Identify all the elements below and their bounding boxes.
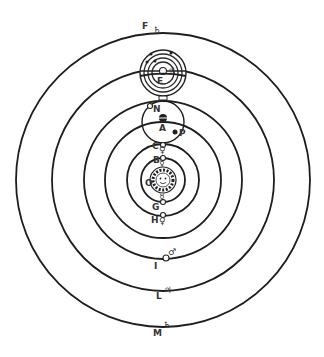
sun-icon xyxy=(150,167,176,193)
jupiter-symbol-bottom: ♃ xyxy=(164,285,172,295)
mars-symbol: ♂ xyxy=(168,247,176,257)
mercury-symbol-g: ☿ xyxy=(159,192,165,202)
planetary-diagram: F ♄ E ♃ N A P C ♀ B ☿ O ☿ G H ♀ I ♂ L ♃ … xyxy=(0,0,324,357)
mercury-symbol-b: ☿ xyxy=(159,158,165,168)
label-o: O xyxy=(145,178,153,188)
jupiter-symbol-top: ♃ xyxy=(168,66,176,76)
label-a: A xyxy=(159,123,166,133)
label-l: L xyxy=(156,291,162,301)
label-p: P xyxy=(179,128,186,138)
earth-moon-system xyxy=(142,101,184,143)
label-f: F xyxy=(142,21,148,31)
label-n: N xyxy=(153,104,161,114)
saturn-symbol-bottom: ♄ xyxy=(163,320,171,330)
venus-symbol-c: ♀ xyxy=(159,145,166,155)
label-e: E xyxy=(157,76,163,86)
venus-symbol-h: ♀ xyxy=(159,216,166,226)
label-h: H xyxy=(151,215,159,225)
label-m: M xyxy=(153,328,162,338)
label-c: C xyxy=(152,141,159,151)
saturn-symbol-top: ♄ xyxy=(153,25,161,35)
moon-n-icon xyxy=(148,104,153,109)
label-i: I xyxy=(154,261,157,271)
label-g: G xyxy=(152,202,159,212)
moon-p-icon xyxy=(173,130,178,135)
